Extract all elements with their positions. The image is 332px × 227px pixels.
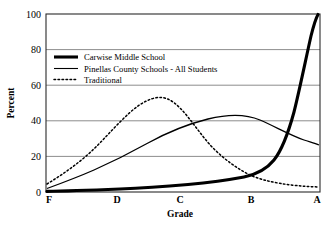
grade-distribution-chart: 0 20 40 60 80 100 Percent F D C B A Grad… (0, 0, 332, 227)
y-tick-label-60: 60 (31, 80, 41, 91)
plot-background (46, 14, 320, 192)
legend-label-carwise: Carwise Middle School (84, 52, 166, 62)
y-tick-label-100: 100 (26, 9, 41, 20)
x-axis-ticks: F D C B A (46, 194, 321, 205)
x-tick-label-b: B (248, 194, 255, 205)
x-tick-label-d: D (113, 194, 120, 205)
y-axis-ticks: 0 20 40 60 80 100 (26, 9, 41, 198)
y-tick-label-0: 0 (36, 187, 41, 198)
x-tick-label-a: A (313, 194, 321, 205)
x-tick-label-f: F (46, 194, 52, 205)
chart-canvas: 0 20 40 60 80 100 Percent F D C B A Grad… (0, 0, 332, 227)
legend-label-pinellas: Pinellas County Schools - All Students (84, 64, 218, 74)
y-axis-title: Percent (6, 87, 16, 119)
x-axis-title: Grade (167, 209, 193, 219)
x-tick-label-c: C (176, 194, 183, 205)
y-tick-label-20: 20 (31, 151, 41, 162)
legend-label-traditional: Traditional (84, 75, 122, 85)
y-tick-label-80: 80 (31, 44, 41, 55)
y-tick-label-40: 40 (31, 115, 41, 126)
